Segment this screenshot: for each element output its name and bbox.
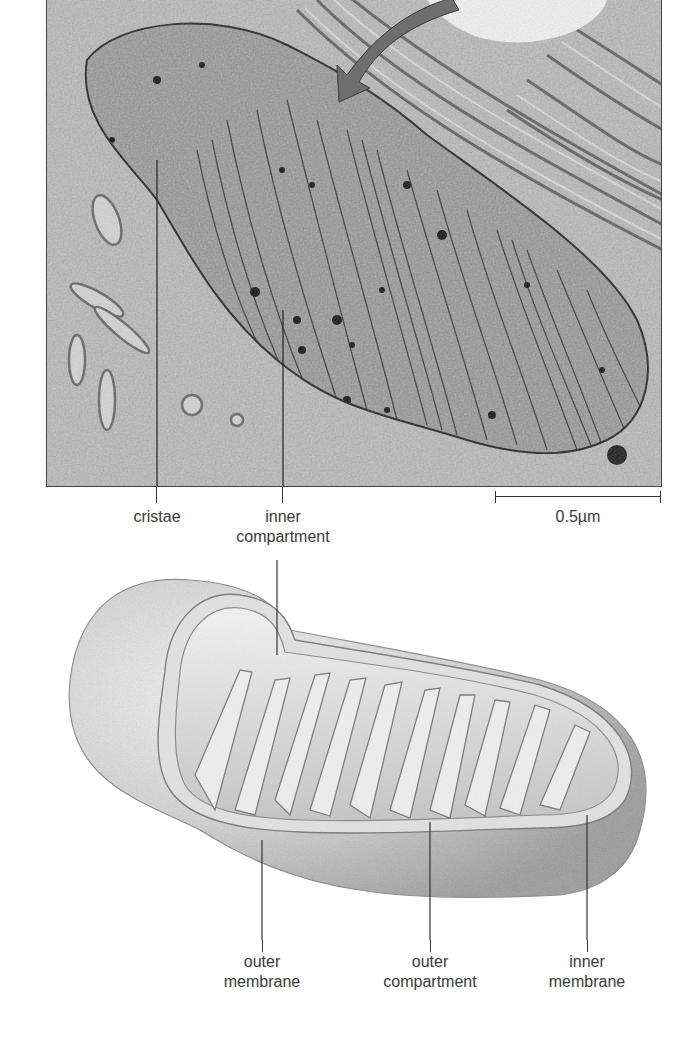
scale-bar-text: 0.5µm	[556, 508, 601, 525]
micrograph-image	[47, 0, 662, 487]
label-inner-compartment-line2: compartment	[236, 527, 329, 547]
label-inner-compartment: inner compartment	[236, 507, 329, 547]
label-outer-compartment-line1: outer	[383, 952, 476, 972]
scale-bar	[495, 491, 661, 503]
outer-compartment-leader-line	[430, 940, 431, 952]
outer-membrane-leader-line	[262, 940, 263, 952]
label-outer-membrane-line1: outer	[224, 952, 300, 972]
label-cristae: cristae	[133, 507, 180, 527]
scale-bar-label: 0.5µm	[556, 507, 601, 527]
mitochondrion-illustration	[40, 560, 670, 940]
label-outer-compartment: outer compartment	[383, 952, 476, 992]
label-inner-membrane-line1: inner	[549, 952, 625, 972]
label-outer-membrane: outer membrane	[224, 952, 300, 992]
inner-compartment-leader-line	[282, 487, 283, 503]
label-inner-compartment-line1: inner	[236, 507, 329, 527]
illustration-image	[40, 560, 670, 940]
label-outer-membrane-line2: membrane	[224, 972, 300, 992]
label-outer-compartment-line2: compartment	[383, 972, 476, 992]
electron-micrograph	[46, 0, 662, 487]
cristae-leader-line	[156, 487, 157, 503]
inner-membrane-leader-line	[587, 940, 588, 952]
label-inner-membrane-line2: membrane	[549, 972, 625, 992]
label-cristae-text: cristae	[133, 508, 180, 525]
label-inner-membrane: inner membrane	[549, 952, 625, 992]
